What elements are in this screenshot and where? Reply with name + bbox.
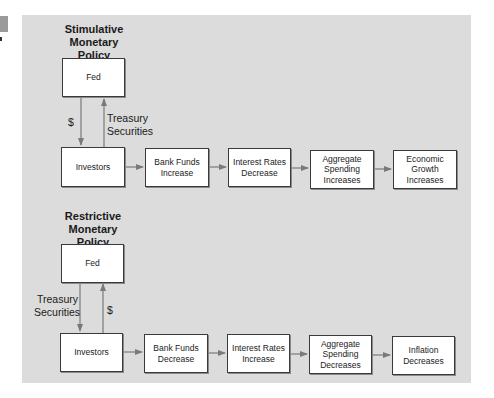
- stimulative-title-line1: Stimulative Monetary: [40, 23, 148, 49]
- restrictive-step-bank-funds: Bank Funds Decrease: [144, 334, 208, 373]
- restrictive-step-interest-rates: Interest Rates Increase: [227, 334, 290, 373]
- page-tab-marker: [0, 16, 8, 32]
- stimulative-treasury-line2: Securities: [107, 125, 153, 138]
- step-line: Decreases: [320, 360, 361, 371]
- restrictive-fed-box: Fed: [61, 244, 124, 283]
- stimulative-fed-box: Fed: [62, 58, 125, 97]
- step-line: Aggregate: [320, 339, 361, 350]
- step-line: Growth: [406, 164, 443, 175]
- step-line: Decrease: [153, 354, 198, 365]
- restrictive-title-line1: Restrictive Monetary: [40, 210, 146, 236]
- page-tab-mark: [0, 37, 2, 41]
- stimulative-step-investors: Investors: [61, 147, 125, 187]
- restrictive-treasury-line2: Securities: [34, 306, 78, 319]
- step-line: Spending: [322, 164, 361, 175]
- step-line: Aggregate: [322, 154, 361, 165]
- step-line: Investors: [76, 162, 111, 173]
- restrictive-fed-label: Fed: [85, 258, 100, 269]
- stimulative-step-interest-rates: Interest Rates Decrease: [228, 148, 291, 187]
- stimulative-step-bank-funds: Bank Funds Increase: [145, 148, 209, 187]
- step-line: Inflation: [403, 345, 444, 356]
- step-line: Increase: [154, 168, 199, 179]
- step-line: Interest Rates: [232, 343, 285, 354]
- step-line: Spending: [320, 349, 361, 360]
- step-line: Interest Rates: [233, 157, 286, 168]
- stimulative-title: Stimulative Monetary Policy: [40, 23, 148, 62]
- step-line: Increases: [322, 175, 361, 186]
- restrictive-dollar-label: $: [107, 304, 113, 317]
- restrictive-treasury-line1: Treasury: [34, 293, 78, 306]
- step-line: Decrease: [233, 168, 286, 179]
- step-line: Decreases: [403, 356, 444, 367]
- step-line: Bank Funds: [154, 157, 199, 168]
- stimulative-step-economic-growth: Economic Growth Increases: [393, 150, 457, 189]
- stimulative-fed-label: Fed: [86, 72, 101, 83]
- step-line: Investors: [74, 347, 109, 358]
- step-line: Increases: [406, 175, 443, 186]
- restrictive-step-investors: Investors: [60, 333, 123, 372]
- stimulative-step-aggregate-spending: Aggregate Spending Increases: [310, 150, 374, 189]
- stimulative-dollar-label: $: [68, 116, 74, 129]
- step-line: Increase: [232, 354, 285, 365]
- stimulative-treasury-label: Treasury Securities: [107, 112, 153, 137]
- restrictive-step-inflation: Inflation Decreases: [392, 336, 455, 375]
- step-line: Economic: [406, 154, 443, 165]
- restrictive-treasury-label: Treasury Securities: [34, 293, 78, 318]
- step-line: Bank Funds: [153, 343, 198, 354]
- stimulative-treasury-line1: Treasury: [107, 112, 153, 125]
- restrictive-step-aggregate-spending: Aggregate Spending Decreases: [309, 335, 372, 374]
